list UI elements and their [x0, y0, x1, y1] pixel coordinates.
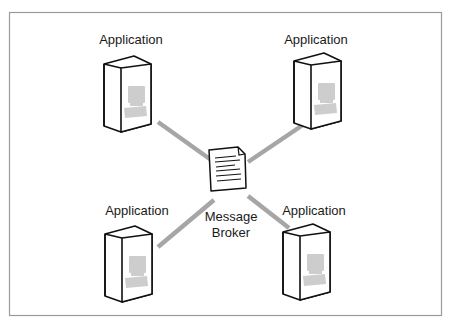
computer-icon [283, 224, 330, 300]
computer-icon [104, 56, 151, 132]
computer-icon [105, 226, 152, 302]
broker-label-line1: Message [205, 209, 258, 224]
node-app-top-right: Application [284, 32, 348, 129]
computer-icon [294, 53, 341, 129]
node-label: Application [284, 32, 348, 47]
node-label: Application [282, 203, 346, 218]
broker-label-line2: Broker [212, 225, 251, 240]
document-icon [209, 147, 246, 191]
node-label: Application [105, 203, 169, 218]
message-broker-diagram: Application Application Application Appl… [0, 0, 449, 323]
node-label: Application [99, 32, 163, 47]
